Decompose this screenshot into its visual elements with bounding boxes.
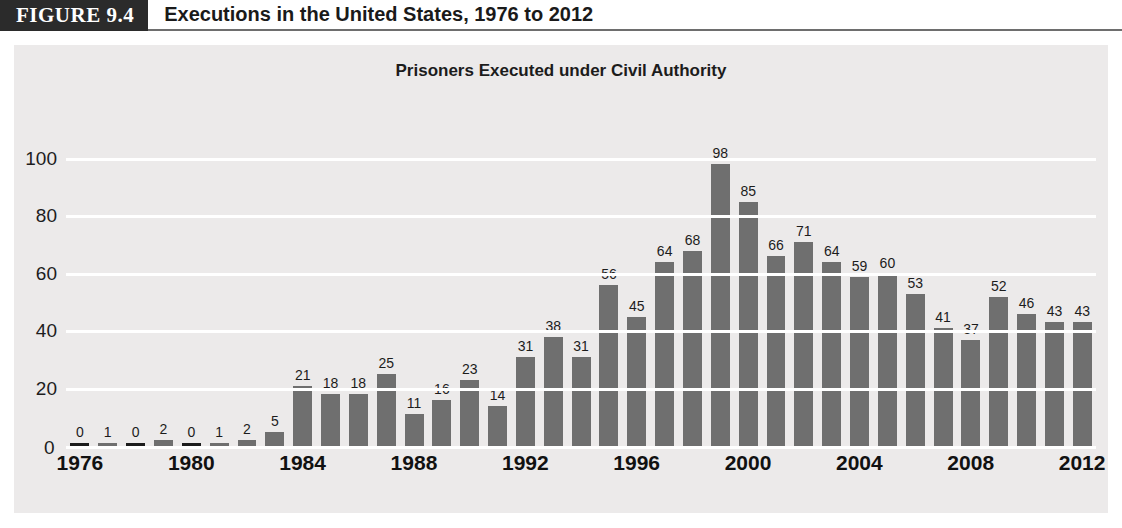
- y-axis-tick-label: 100: [25, 148, 66, 170]
- bar-item[interactable]: 64: [651, 130, 679, 446]
- x-axis-tick-label: 1996: [613, 451, 660, 475]
- bar[interactable]: [599, 285, 618, 446]
- bar-value-label: 5: [261, 413, 289, 429]
- bar[interactable]: [572, 357, 591, 446]
- bar-item[interactable]: 60: [873, 130, 901, 446]
- bar[interactable]: [711, 164, 730, 446]
- bar[interactable]: [1073, 322, 1092, 446]
- bar[interactable]: [989, 297, 1008, 446]
- bar-item[interactable]: 71: [790, 130, 818, 446]
- bar-item[interactable]: 85: [734, 130, 762, 446]
- bar[interactable]: [850, 277, 869, 446]
- bar-value-label: 53: [901, 275, 929, 291]
- bar-item[interactable]: 41: [929, 130, 957, 446]
- bar-item[interactable]: 37: [957, 130, 985, 446]
- bar-item[interactable]: 31: [567, 130, 595, 446]
- y-axis-tick-label: 40: [36, 320, 66, 342]
- bar[interactable]: [655, 262, 674, 446]
- bar-series: 0102012521181825111623143138315645646898…: [66, 130, 1096, 446]
- bar-value-label: 31: [512, 338, 540, 354]
- bar-item[interactable]: 23: [456, 130, 484, 446]
- x-axis-tick-label: 1992: [502, 451, 549, 475]
- bar-item[interactable]: 45: [623, 130, 651, 446]
- bar-item[interactable]: 66: [762, 130, 790, 446]
- y-axis-tick-label: 60: [36, 263, 66, 285]
- bar-item[interactable]: 43: [1068, 130, 1096, 446]
- x-axis-line: [66, 446, 1096, 449]
- bar-item[interactable]: 98: [706, 130, 734, 446]
- bar-item[interactable]: 2: [233, 130, 261, 446]
- bar-item[interactable]: 0: [66, 130, 94, 446]
- bar-item[interactable]: 16: [428, 130, 456, 446]
- bar[interactable]: [906, 294, 925, 446]
- bar-item[interactable]: 2: [150, 130, 178, 446]
- gridline: [66, 273, 1096, 276]
- bar-value-label: 1: [205, 424, 233, 440]
- x-axis-ticks: 1976198019841988199219962000200420082012: [66, 451, 1096, 485]
- plot-area: 0102012521181825111623143138315645646898…: [66, 130, 1096, 446]
- gridline: [66, 330, 1096, 333]
- bar[interactable]: [544, 337, 563, 446]
- bar-item[interactable]: 18: [344, 130, 372, 446]
- x-axis-tick-label: 2004: [836, 451, 883, 475]
- x-axis-tick-label: 1976: [57, 451, 104, 475]
- bar[interactable]: [516, 357, 535, 446]
- bar[interactable]: [265, 432, 284, 446]
- bar-value-label: 46: [1013, 295, 1041, 311]
- bar[interactable]: [961, 340, 980, 446]
- bar-value-label: 11: [400, 395, 428, 411]
- bar-item[interactable]: 46: [1013, 130, 1041, 446]
- x-axis-tick-label: 1988: [391, 451, 438, 475]
- bar-item[interactable]: 25: [372, 130, 400, 446]
- bar-value-label: 0: [66, 424, 94, 440]
- bar[interactable]: [739, 202, 758, 446]
- bar-value-label: 2: [150, 421, 178, 437]
- bar[interactable]: [432, 400, 451, 446]
- bar[interactable]: [878, 274, 897, 446]
- bar[interactable]: [683, 251, 702, 446]
- bar-item[interactable]: 43: [1041, 130, 1069, 446]
- figure-page: FIGURE 9.4 Executions in the United Stat…: [0, 0, 1122, 528]
- bar-value-label: 37: [957, 321, 985, 337]
- bar-item[interactable]: 38: [539, 130, 567, 446]
- bar[interactable]: [321, 394, 340, 446]
- bar-item[interactable]: 68: [679, 130, 707, 446]
- bar[interactable]: [377, 374, 396, 446]
- bar-item[interactable]: 64: [818, 130, 846, 446]
- bar[interactable]: [1045, 322, 1064, 446]
- bar-value-label: 45: [623, 298, 651, 314]
- bar-item[interactable]: 18: [317, 130, 345, 446]
- x-axis-tick-label: 1984: [279, 451, 326, 475]
- bar-item[interactable]: 59: [846, 130, 874, 446]
- bar-value-label: 23: [456, 361, 484, 377]
- bar-item[interactable]: 1: [205, 130, 233, 446]
- bar-item[interactable]: 0: [177, 130, 205, 446]
- bar-item[interactable]: 31: [512, 130, 540, 446]
- bar-value-label: 60: [873, 255, 901, 271]
- bar-item[interactable]: 1: [94, 130, 122, 446]
- bar-item[interactable]: 52: [985, 130, 1013, 446]
- bar-value-label: 1: [94, 424, 122, 440]
- bar[interactable]: [822, 262, 841, 446]
- bar-item[interactable]: 53: [901, 130, 929, 446]
- bar[interactable]: [293, 386, 312, 446]
- bar[interactable]: [405, 414, 424, 446]
- bar-item[interactable]: 14: [484, 130, 512, 446]
- bar-item[interactable]: 21: [289, 130, 317, 446]
- y-axis-tick-label: 80: [36, 205, 66, 227]
- bar-item[interactable]: 5: [261, 130, 289, 446]
- chart-title: Prisoners Executed under Civil Authority: [14, 61, 1108, 81]
- y-axis-zero-label: 0: [44, 437, 55, 459]
- bar[interactable]: [349, 394, 368, 446]
- chart-panel: Prisoners Executed under Civil Authority…: [14, 45, 1108, 513]
- bar-item[interactable]: 0: [122, 130, 150, 446]
- bar-value-label: 66: [762, 237, 790, 253]
- bar[interactable]: [488, 406, 507, 446]
- bar[interactable]: [627, 317, 646, 446]
- bar-item[interactable]: 11: [400, 130, 428, 446]
- bar-value-label: 21: [289, 367, 317, 383]
- bar-item[interactable]: 56: [595, 130, 623, 446]
- bar[interactable]: [1017, 314, 1036, 446]
- x-axis-tick-label: 1980: [168, 451, 215, 475]
- bar[interactable]: [767, 256, 786, 446]
